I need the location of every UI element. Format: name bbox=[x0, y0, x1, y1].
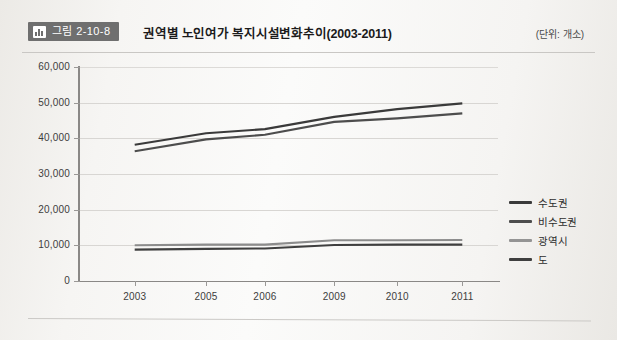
chart-legend: 수도권비수도권광역시도 bbox=[509, 193, 577, 269]
legend-swatch bbox=[509, 258, 532, 261]
x-tick-label: 2011 bbox=[451, 291, 473, 302]
y-tick-label: 20,000 bbox=[8, 204, 70, 215]
y-tick bbox=[74, 281, 80, 282]
legend-label: 수도권 bbox=[538, 195, 567, 210]
legend-swatch bbox=[509, 239, 532, 242]
header-divider bbox=[22, 52, 595, 53]
x-tick bbox=[397, 281, 398, 286]
x-tick-label: 2009 bbox=[323, 291, 346, 302]
bar-chart-icon bbox=[33, 26, 46, 38]
x-tick-label: 2010 bbox=[386, 291, 409, 302]
legend-swatch bbox=[509, 201, 532, 204]
y-tick-label: 10,000 bbox=[8, 239, 70, 250]
legend-swatch bbox=[509, 220, 532, 223]
figure-title: 권역별 노인여가 복지시설변화추이(2003-2011) bbox=[143, 23, 392, 42]
y-tick-label: 40,000 bbox=[8, 132, 70, 143]
x-tick bbox=[462, 281, 463, 286]
footer-divider bbox=[28, 318, 591, 321]
legend-label: 비수도권 bbox=[538, 214, 577, 229]
legend-item[interactable]: 광역시 bbox=[509, 231, 577, 250]
legend-item[interactable]: 비수도권 bbox=[509, 212, 577, 231]
figure-number-badge: 그림 2-10-8 bbox=[28, 22, 119, 41]
series-line bbox=[135, 113, 463, 151]
legend-label: 광역시 bbox=[538, 233, 567, 248]
series-line bbox=[135, 103, 463, 144]
line-chart: 010,00020,00030,00040,00050,00060,000 20… bbox=[0, 55, 617, 305]
legend-item[interactable]: 도 bbox=[509, 250, 577, 269]
x-axis-line bbox=[78, 281, 500, 282]
legend-item[interactable]: 수도권 bbox=[509, 193, 577, 212]
y-tick-label: 60,000 bbox=[8, 61, 70, 72]
x-tick bbox=[265, 281, 266, 286]
series-lines bbox=[78, 67, 498, 281]
figure-header: 그림 2-10-8 권역별 노인여가 복지시설변화추이(2003-2011) (… bbox=[0, 22, 617, 48]
x-tick-label: 2003 bbox=[123, 291, 146, 302]
x-tick bbox=[334, 281, 335, 286]
figure-unit-note: (단위: 개소) bbox=[536, 26, 584, 41]
y-tick-label: 50,000 bbox=[8, 97, 70, 108]
x-tick-label: 2006 bbox=[253, 291, 276, 302]
y-tick-label: 0 bbox=[8, 275, 70, 286]
figure-number-label: 그림 2-10-8 bbox=[52, 22, 110, 41]
x-tick bbox=[135, 281, 136, 286]
figure-page: 그림 2-10-8 권역별 노인여가 복지시설변화추이(2003-2011) (… bbox=[0, 0, 617, 340]
x-tick bbox=[206, 281, 207, 286]
legend-label: 도 bbox=[538, 252, 548, 267]
y-tick-label: 30,000 bbox=[8, 168, 70, 179]
x-tick-label: 2005 bbox=[195, 291, 218, 302]
